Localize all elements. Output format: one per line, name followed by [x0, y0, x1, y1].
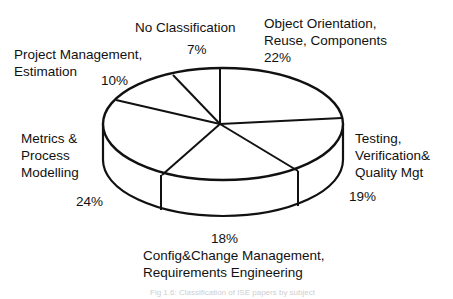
pct-metrics: 24%	[76, 194, 103, 210]
pct-testing: 19%	[349, 189, 376, 205]
label-metrics-line2: Process	[21, 148, 70, 164]
figure-caption: Fig 1.6: Classification of ISE papers by…	[150, 288, 315, 297]
label-no-classification: No Classification	[135, 20, 236, 36]
label-oo-line1: Object Orientation,	[264, 16, 377, 32]
pct-config: 18%	[211, 231, 238, 247]
label-metrics-line3: Modelling	[21, 165, 79, 181]
label-config-line2: Requirements Engineering	[143, 265, 303, 281]
label-oo-line2: Reuse, Components	[264, 33, 387, 49]
pct-no-classification: 7%	[187, 42, 207, 58]
label-metrics-line1: Metrics &	[21, 131, 77, 147]
pct-pm: 10%	[101, 73, 128, 89]
label-pm-line1: Project Management,	[14, 47, 142, 63]
label-testing-line2: Verification&	[355, 148, 430, 164]
label-config-line1: Config&Change Management,	[143, 248, 325, 264]
label-pm-line2: Estimation	[14, 64, 77, 80]
label-testing-line1: Testing,	[355, 131, 402, 147]
pct-oo: 22%	[264, 50, 291, 66]
label-testing-line3: Quality Mgt	[355, 165, 423, 181]
